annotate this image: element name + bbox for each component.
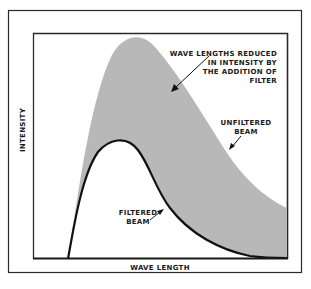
shaded-region-label-line4: FILTER — [250, 77, 278, 85]
unfiltered-label-line1: UNFILTERED — [221, 119, 272, 127]
shaded-region-label-line3: THE ADDITION OF — [203, 68, 277, 76]
x-axis-label: WAVE LENGTH — [130, 264, 190, 272]
filtered-label-line2: BEAM — [126, 218, 150, 226]
unfiltered-label-line2: BEAM — [234, 128, 258, 136]
filtered-label-line1: FILTERED — [119, 209, 158, 217]
y-axis-label: INTENSITY — [19, 107, 27, 152]
filter-spectrum-diagram: WAVE LENGTHS REDUCED IN INTENSITY BY THE… — [0, 0, 311, 289]
shaded-region-label-line2: IN INTENSITY BY — [208, 59, 278, 67]
shaded-region-label-line1: WAVE LENGTHS REDUCED — [170, 50, 277, 58]
